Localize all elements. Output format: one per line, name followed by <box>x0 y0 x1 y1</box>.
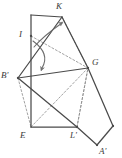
point-lprime <box>76 126 78 128</box>
vertex-label-lp: L' <box>70 131 77 140</box>
edge-right-aprime <box>97 126 113 145</box>
edge-bprime-lprime <box>18 78 77 127</box>
geometry-figure: KIB'GEL'A' <box>0 0 122 158</box>
vertex-label-k: K <box>56 2 62 11</box>
fold-bprime-e <box>18 78 31 127</box>
vertex-label-ap: A' <box>99 147 106 156</box>
point-g <box>87 67 89 69</box>
dashed-edge-group <box>18 17 88 127</box>
edge-aprime-lprime <box>77 127 97 145</box>
point-right <box>112 125 114 127</box>
point-bprime <box>17 77 19 79</box>
point-i <box>30 35 32 37</box>
edge-bprime-g <box>18 68 88 78</box>
vertex-label-e: E <box>20 131 26 140</box>
vertex-label-g: G <box>92 58 99 67</box>
figure-canvas <box>0 0 122 158</box>
vertex-label-i: I <box>19 30 22 39</box>
point-aprime <box>96 144 98 146</box>
edge-k-g <box>62 17 88 68</box>
edge-g-right <box>88 68 113 126</box>
vertex-label-bp: B' <box>1 71 8 80</box>
fold-e-g <box>31 68 88 127</box>
fold-arrow-down-head <box>39 66 44 71</box>
fold-arrow-up-curve <box>34 23 62 47</box>
fold-lprime-up <box>77 68 88 127</box>
edge-top-rect <box>31 15 62 17</box>
